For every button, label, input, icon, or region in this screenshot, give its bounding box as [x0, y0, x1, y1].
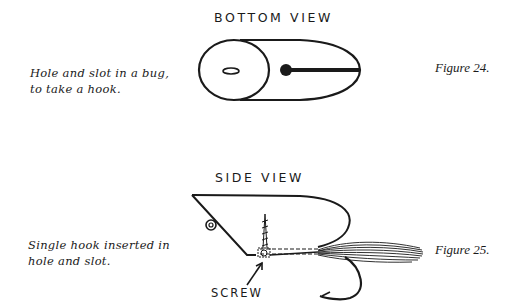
screw-icon — [258, 214, 270, 257]
hook-slot — [280, 64, 359, 76]
side-view-title: SIDE VIEW — [215, 170, 304, 185]
figure25-label: Figure 25. — [435, 242, 489, 258]
screw-callout-label: SCREW — [211, 286, 263, 300]
figure25-caption-line2: hole and slot. — [28, 253, 170, 269]
hackle-feathers — [318, 242, 423, 262]
figure25-caption-line1: Single hook inserted in — [28, 237, 170, 253]
figure25-caption: Single hook inserted in hole and slot. — [28, 237, 170, 269]
screw-arrow — [247, 263, 262, 285]
